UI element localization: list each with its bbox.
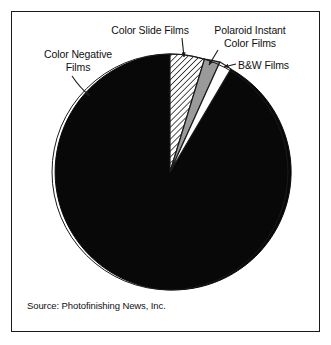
source-note: Source: Photofinishing News, Inc. — [27, 300, 166, 311]
pie-label-color-slide-films: Color Slide Films — [96, 24, 204, 37]
pie-label-color-negative-films: Color Negative Films — [30, 48, 126, 73]
figure-root: Color Negative Films Color Slide Films P… — [0, 0, 331, 345]
pie-label-bw-films: B&W Films — [238, 59, 310, 72]
pie-label-polaroid-instant-color-films: Polaroid Instant Color Films — [202, 24, 298, 49]
